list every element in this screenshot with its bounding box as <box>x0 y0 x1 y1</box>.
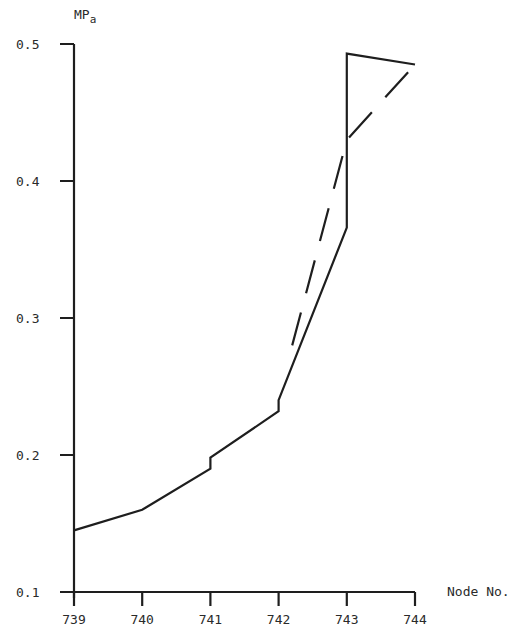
y-tick-label: 0.1 <box>16 585 39 600</box>
series-solid-line <box>74 54 415 531</box>
x-tick-label: 743 <box>335 612 358 627</box>
x-axis-title: Node No. <box>447 584 510 599</box>
x-tick-label: 739 <box>62 612 85 627</box>
y-tick-label: 0.4 <box>16 174 40 189</box>
x-tick-label: 740 <box>130 612 153 627</box>
x-tick-label: 742 <box>267 612 290 627</box>
series-dashed-line <box>292 65 415 346</box>
y-tick-label: 0.3 <box>16 311 39 326</box>
axes: 0.10.20.30.40.5739740741742743744 <box>16 37 427 627</box>
x-tick-label: 744 <box>403 612 427 627</box>
y-tick-label: 0.2 <box>16 448 39 463</box>
y-tick-label: 0.5 <box>16 37 39 52</box>
chart: 0.10.20.30.40.5739740741742743744 MPa No… <box>0 0 527 639</box>
x-tick-label: 741 <box>199 612 222 627</box>
y-axis-title: MPa <box>74 7 96 26</box>
series-group <box>74 54 415 531</box>
